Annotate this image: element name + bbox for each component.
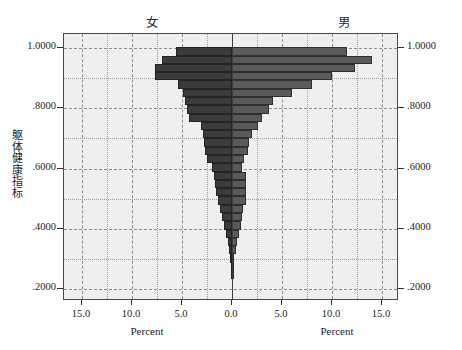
y-tick-label-left: 1.0000 (10, 40, 56, 51)
bar-female (222, 213, 232, 221)
bar-male (232, 147, 248, 155)
bar-female (176, 47, 232, 55)
bar-female (187, 105, 232, 113)
x-tick-label: 5.0 (159, 308, 203, 319)
bar-male (232, 172, 246, 180)
x-tick-mark (281, 300, 282, 305)
y-tick-mark-left (57, 168, 63, 169)
bar-male (232, 205, 243, 213)
y-tick-label-right: .8000 (407, 100, 457, 111)
y-tick-mark-right (398, 288, 404, 289)
bar-male (232, 180, 246, 188)
bar-female (214, 172, 232, 180)
zero-axis-line (232, 34, 233, 299)
bar-male (232, 72, 332, 80)
bar-male (232, 47, 347, 55)
bar-male (232, 221, 241, 229)
bar-male (232, 122, 258, 130)
bar-female (155, 64, 232, 72)
y-tick-label-right: .4000 (407, 221, 457, 232)
bar-male (232, 196, 246, 204)
x-tick-label: 0.0 (209, 308, 253, 319)
population-pyramid-chart: · · · · · · ·· · · · · · ·· · · · · · 女 … (0, 0, 462, 350)
bar-male (232, 130, 252, 138)
x-axis-caption-right: Percent (297, 325, 377, 337)
y-tick-label-left: .2000 (10, 281, 56, 292)
x-tick-mark (181, 300, 182, 305)
plot-area (63, 33, 398, 300)
bar-female (224, 221, 232, 229)
horizontal-gridline (64, 289, 397, 290)
bar-male (232, 80, 312, 88)
bar-female (201, 122, 232, 130)
bar-female (205, 147, 232, 155)
y-tick-label-right: .6000 (407, 161, 457, 172)
bar-male (232, 138, 249, 146)
x-tick-label: 15.0 (359, 308, 403, 319)
y-tick-mark-left (57, 107, 63, 108)
x-tick-mark (381, 300, 382, 305)
bar-female (155, 72, 232, 80)
bar-female (178, 80, 232, 88)
bar-male (232, 56, 372, 64)
y-tick-label-left: .8000 (10, 100, 56, 111)
x-tick-label: 10.0 (109, 308, 153, 319)
group-title-female: 女 (122, 12, 182, 31)
y-tick-label-right: 1.0000 (407, 40, 457, 51)
bar-female (216, 188, 232, 196)
bar-female (189, 114, 232, 122)
y-tick-label-left: .4000 (10, 221, 56, 232)
bar-female (207, 155, 232, 163)
x-tick-label: 5.0 (259, 308, 303, 319)
bar-male (232, 64, 355, 72)
bar-female (215, 180, 232, 188)
x-tick-mark (331, 300, 332, 305)
x-axis-caption-left: Percent (107, 325, 187, 337)
bar-female (204, 138, 232, 146)
x-tick-mark (81, 300, 82, 305)
bar-female (183, 89, 232, 97)
bar-male (232, 163, 242, 171)
bar-male (232, 97, 273, 105)
x-tick-label: 10.0 (309, 308, 353, 319)
bar-female (162, 56, 232, 64)
y-tick-mark-right (398, 107, 404, 108)
bar-male (232, 89, 292, 97)
bar-female (220, 205, 232, 213)
x-tick-mark (131, 300, 132, 305)
bar-male (232, 105, 269, 113)
y-tick-label-left: .6000 (10, 161, 56, 172)
y-tick-mark-right (398, 168, 404, 169)
bar-male (232, 114, 262, 122)
bar-female (185, 97, 232, 105)
y-tick-label-right: .2000 (407, 281, 457, 292)
scan-artifact-noise: · · · · · · ·· · · · · · ·· · · · · · (0, 0, 462, 9)
bar-female (212, 163, 232, 171)
bar-male (232, 155, 244, 163)
y-tick-mark-right (398, 228, 404, 229)
bar-female (203, 130, 232, 138)
bar-male (232, 213, 242, 221)
x-tick-label: 15.0 (59, 308, 103, 319)
y-tick-mark-left (57, 288, 63, 289)
y-tick-mark-left (57, 228, 63, 229)
y-tick-mark-left (57, 47, 63, 48)
bar-female (218, 196, 232, 204)
bar-male (232, 188, 246, 196)
y-tick-mark-right (398, 47, 404, 48)
group-title-male: 男 (314, 12, 374, 31)
x-tick-mark (231, 300, 232, 305)
